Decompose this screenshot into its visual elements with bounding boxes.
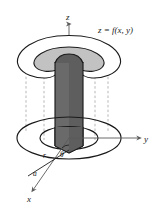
- angle-theta-label: θ: [60, 150, 64, 159]
- z-axis-label: z: [65, 12, 70, 22]
- surface-equation-label: z = f(x, y): [97, 25, 133, 35]
- figure-container: z y x z = f(x, y) r θ a: [0, 0, 159, 208]
- surface-diagram-svg: z y x z = f(x, y) r θ a: [0, 0, 159, 208]
- radius-a-label: a: [33, 169, 37, 178]
- radius-r-label: r: [43, 151, 46, 160]
- y-axis-label: y: [143, 134, 148, 144]
- x-axis-label: x: [26, 194, 31, 204]
